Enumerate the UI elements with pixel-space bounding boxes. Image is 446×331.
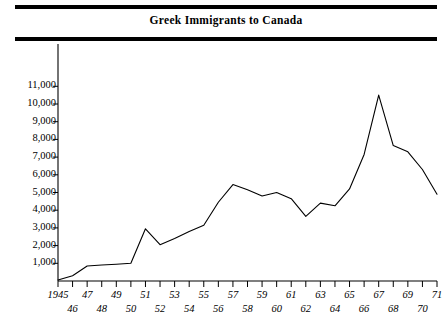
- x-axis-ticks: [58, 281, 437, 287]
- data-series-line: [58, 95, 437, 280]
- x-axis-tick-label: 70: [397, 303, 446, 314]
- line-chart-plot: [0, 0, 446, 331]
- y-axis-ticks: [53, 86, 58, 263]
- x-axis-tick-label: 71: [412, 289, 446, 300]
- chart-figure: Greek Immigrants to Canada 1,0002,0003,0…: [0, 0, 446, 331]
- axes: [58, 44, 437, 281]
